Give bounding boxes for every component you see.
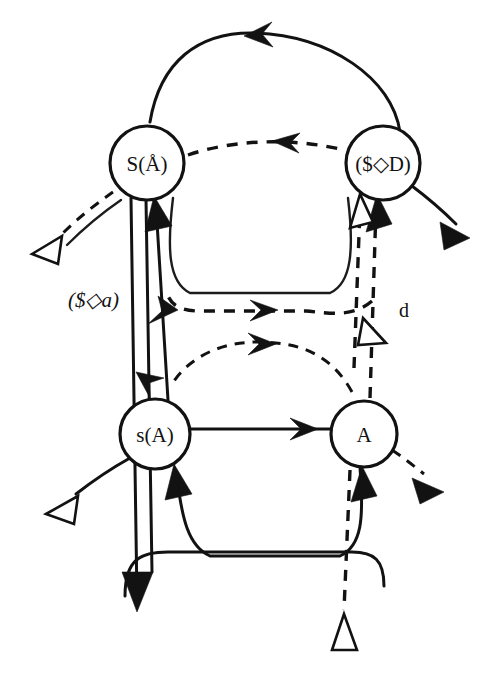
arrowhead-hollow [32, 236, 62, 264]
edge-lower-mid-dashed-right-to-left [172, 333, 352, 392]
node-label: s(A) [136, 423, 173, 447]
arrowhead-solid [165, 464, 192, 500]
edge-top-arc-right-to-left [150, 22, 400, 132]
edge-mid-dashed-right-to-left [148, 296, 372, 324]
node-s-A[interactable]: s(A) [120, 399, 190, 469]
node-label: A [356, 423, 372, 447]
arrowhead-hollow [332, 614, 357, 650]
node-S-A[interactable]: S(Å) [110, 126, 184, 200]
edge-upper-trough-solid [170, 198, 351, 293]
edge-exit-lower-right-dashed [392, 450, 444, 504]
edge-label-dollar-diamond-a: ($◇a) [68, 288, 119, 312]
node-dollar-diamond-D[interactable]: ($◇D) [346, 126, 420, 200]
arrowhead-solid [440, 222, 470, 250]
edge-exit-upper-right-solid [412, 186, 470, 250]
arrowhead-solid [412, 478, 444, 504]
edge-label-d: d [399, 299, 409, 321]
edge-bottom-horizontal-solid [191, 418, 330, 440]
arrowhead-hollow [46, 496, 78, 524]
node-label: ($◇D) [355, 152, 411, 176]
edge-exit-lower-left-solid [46, 458, 130, 524]
arrowhead-solid [351, 466, 377, 502]
arrowhead-hollow [358, 318, 386, 345]
node-label: S(Å) [127, 152, 168, 176]
edge-top-dashed-left-to-right [188, 133, 344, 155]
arrowhead-solid [248, 333, 276, 355]
node-A[interactable]: A [331, 401, 397, 467]
edge-mid-hollow-head-right [358, 318, 386, 345]
edge-bottom-trough-solid [165, 464, 377, 556]
graph-diagram-canvas: S(Å) ($◇D) s(A) A ($◇a) d [0, 0, 490, 687]
edge-exit-upper-left-dashed [32, 192, 113, 264]
edge-vertical-dashed-right-pair [366, 194, 392, 398]
bottom-caption [0, 668, 490, 686]
figure-root: S(Å) ($◇D) s(A) A ($◇a) d [0, 0, 490, 687]
